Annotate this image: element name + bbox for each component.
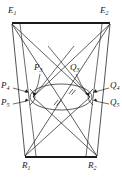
label-E2: E2 — [100, 6, 109, 16]
label-Q5: Q5 — [110, 98, 120, 108]
arc-cap-P — [30, 89, 35, 105]
central-ellipse — [30, 84, 92, 110]
leader-Q3 — [76, 74, 88, 95]
leader-Q5 — [93, 98, 109, 104]
label-R1: R1 — [22, 161, 31, 171]
figure-canvas — [0, 0, 122, 181]
label-E1: E1 — [8, 6, 17, 16]
label-P3: P3 — [34, 63, 43, 73]
hatch-mark-upper — [69, 89, 76, 95]
ray-E2-through-Q-to-R2 — [86, 24, 102, 156]
label-R2: R2 — [88, 161, 97, 171]
label-P5: P5 — [1, 98, 10, 108]
label-P4: P4 — [1, 81, 10, 91]
leader-P5 — [13, 98, 29, 104]
edge-E1-R1 — [12, 24, 25, 156]
diagonal-E2-R1 — [25, 24, 110, 156]
edge-E2-R2 — [97, 24, 110, 156]
leader-Q4 — [93, 88, 109, 93]
leader-P4 — [13, 88, 29, 93]
geometry-figure: E1 E2 P3 Q3 P4 Q4 P5 Q5 R1 R2 — [0, 0, 122, 181]
label-Q4: Q4 — [110, 81, 120, 91]
label-Q3: Q3 — [70, 63, 80, 73]
